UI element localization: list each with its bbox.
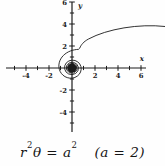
caption: r2θ = a2 (a = 2) bbox=[0, 140, 165, 164]
y-tick-label: -4 bbox=[59, 109, 67, 117]
origin-dot bbox=[68, 64, 76, 72]
x-tick-label: 2 bbox=[93, 72, 98, 80]
x-tick-label: -2 bbox=[45, 72, 53, 80]
y-tick-label: 6 bbox=[62, 0, 67, 7]
y-tick-label: 4 bbox=[62, 21, 67, 29]
y-axis-label: y bbox=[77, 1, 83, 10]
x-axis-label: x bbox=[139, 54, 145, 63]
y-tick-label: 2 bbox=[62, 43, 67, 51]
lituus-figure: -4-2246642-2-4xy r2θ = a2 (a = 2) bbox=[0, 0, 165, 166]
x-tick-label: -4 bbox=[22, 72, 30, 80]
caption-equation: r2θ = a2 bbox=[20, 144, 77, 160]
x-tick-label: 6 bbox=[139, 72, 144, 80]
x-tick-label: 4 bbox=[116, 72, 121, 80]
caption-parameter: (a = 2) bbox=[94, 144, 145, 160]
y-tick-label: -2 bbox=[59, 87, 67, 95]
